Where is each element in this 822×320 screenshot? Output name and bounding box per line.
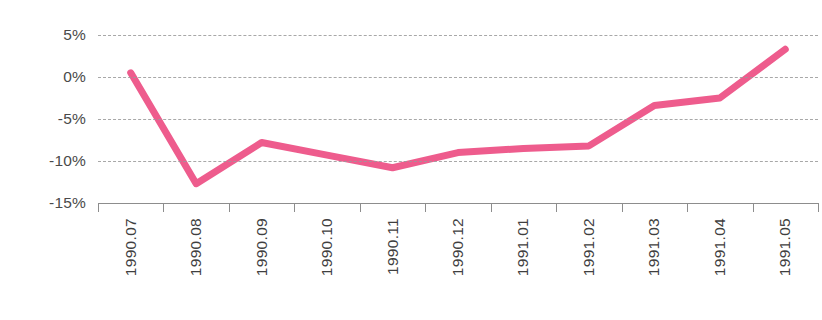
x-axis-tickmark: [687, 203, 688, 212]
x-axis-tickmark: [98, 203, 99, 212]
x-axis-tick-label: 1991.02: [581, 218, 597, 276]
x-axis-tick-label: 1990.08: [188, 218, 204, 276]
x-axis: 1990.071990.081990.091990.101990.111990.…: [98, 213, 818, 320]
x-axis-tickmark: [622, 203, 623, 212]
x-axis-tickmark: [556, 203, 557, 212]
x-axis-tick-label: 1990.12: [450, 218, 466, 276]
x-axis-tickmark: [360, 203, 361, 212]
x-axis-tick-label: 1991.01: [516, 218, 532, 276]
x-axis-line: [98, 203, 818, 204]
y-axis-tick-label: -10%: [0, 153, 86, 169]
y-axis-tick-label: -5%: [0, 111, 86, 127]
x-axis-tick-label: 1991.04: [712, 218, 728, 276]
gridline: [98, 161, 818, 162]
x-axis-tick-label: 1990.09: [254, 218, 270, 276]
data-line: [131, 49, 786, 183]
y-axis-tick-label: 5%: [0, 27, 86, 43]
x-axis-tick-label: 1990.10: [319, 218, 335, 276]
x-axis-tick-label: 1991.05: [778, 218, 794, 276]
x-axis-tickmark: [229, 203, 230, 212]
x-axis-tickmark: [753, 203, 754, 212]
x-axis-tickmark: [425, 203, 426, 212]
y-axis-tick-label: 0%: [0, 69, 86, 85]
x-axis-tick-label: 1990.11: [385, 218, 401, 275]
x-axis-tickmark: [818, 203, 819, 212]
y-axis: 5%0%-5%-10%-15%: [0, 0, 86, 320]
x-axis-tick-label: 1990.07: [123, 218, 139, 276]
x-axis-tick-label: 1991.03: [647, 218, 663, 276]
line-chart: 5%0%-5%-10%-15% 1990.071990.081990.09199…: [0, 0, 822, 320]
gridline: [98, 119, 818, 120]
gridline: [98, 77, 818, 78]
y-axis-tick-label: -15%: [0, 195, 86, 211]
x-axis-tickmark: [294, 203, 295, 212]
x-axis-tickmark: [491, 203, 492, 212]
gridline: [98, 35, 818, 36]
x-axis-tickmark: [163, 203, 164, 212]
